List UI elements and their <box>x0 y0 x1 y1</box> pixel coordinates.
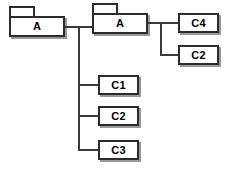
package-a-left-label: A <box>33 21 41 32</box>
class-node-c3[interactable]: C3 <box>98 140 139 160</box>
edge-right-branch-vertical <box>160 22 162 55</box>
edge-trunk-to-c1 <box>78 84 98 86</box>
class-node-c2-right[interactable]: C2 <box>178 45 219 65</box>
package-node-a-left[interactable]: A <box>9 6 65 37</box>
class-node-c2-left[interactable]: C2 <box>98 106 139 126</box>
edge-a-mid-to-right-branch <box>148 22 178 24</box>
class-c3-label: C3 <box>111 145 125 156</box>
edge-trunk-to-c3 <box>78 149 98 151</box>
class-node-c1[interactable]: C1 <box>98 75 139 95</box>
diagram-canvas: A A C4 C2 C1 C2 C3 <box>0 0 229 176</box>
package-a-mid-label: A <box>116 18 124 29</box>
class-c4-label: C4 <box>191 18 205 29</box>
edge-right-branch-to-c2-right <box>160 54 178 56</box>
class-node-c4[interactable]: C4 <box>178 13 219 33</box>
class-c2-left-label: C2 <box>111 111 125 122</box>
package-node-a-mid[interactable]: A <box>92 3 148 34</box>
class-c1-label: C1 <box>111 80 125 91</box>
class-c2-right-label: C2 <box>191 50 205 61</box>
package-body: A <box>9 16 65 37</box>
package-body: A <box>92 13 148 34</box>
edge-trunk-vertical <box>78 26 80 150</box>
edge-trunk-to-c2-left <box>78 115 98 117</box>
